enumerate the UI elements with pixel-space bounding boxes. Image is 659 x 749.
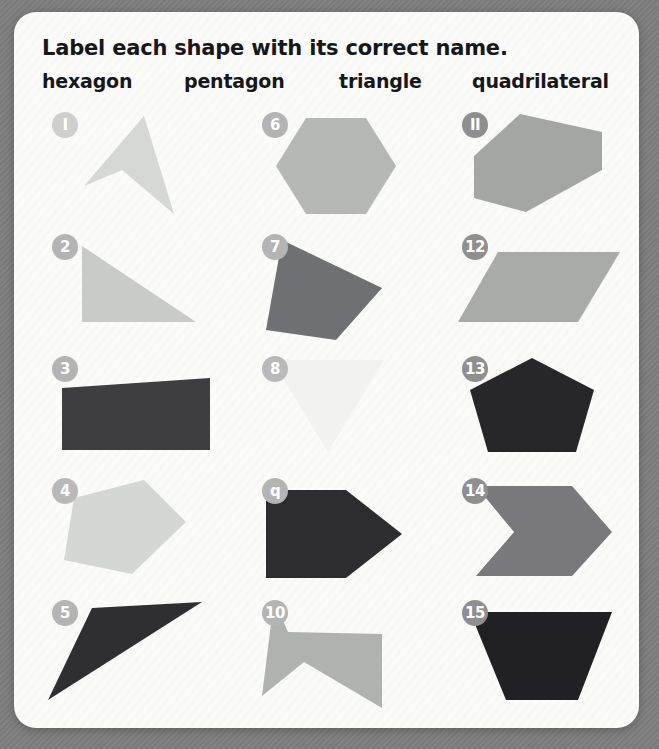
shape-number-badge-3: 3 [52, 356, 78, 382]
shape-number-badge-9: q [262, 478, 288, 504]
page-title: Label each shape with its correct name. [42, 36, 508, 60]
shape-cell-11[interactable]: II [454, 108, 639, 226]
shape-cell-14[interactable]: 14 [454, 474, 639, 592]
word-bank-term-hexagon[interactable]: hexagon [42, 70, 132, 92]
shape-cell-13[interactable]: 13 [454, 352, 639, 470]
shape-cell-3[interactable]: 3 [44, 352, 244, 470]
shape-cell-8[interactable]: 8 [254, 352, 454, 470]
word-bank-term-quadrilateral[interactable]: quadrilateral [472, 70, 609, 92]
shape-number-badge-12: 12 [462, 234, 488, 260]
shape-cell-2[interactable]: 2 [44, 230, 244, 348]
shape-number-badge-14: 14 [462, 478, 488, 504]
word-bank-term-triangle[interactable]: triangle [339, 70, 422, 92]
shape-cell-1[interactable]: I [44, 108, 244, 226]
shape-grid: I2345678q10II12131415 [14, 108, 639, 728]
shape-number-badge-8: 8 [262, 356, 288, 382]
shape-number-badge-5: 5 [52, 600, 78, 626]
shape-cell-6[interactable]: 6 [254, 108, 454, 226]
shape-number-badge-7: 7 [262, 234, 288, 260]
shape-number-badge-4: 4 [52, 478, 78, 504]
shape-number-badge-13: 13 [462, 356, 488, 382]
shape-number-badge-11: II [462, 112, 488, 138]
shape-number-badge-10: 10 [262, 600, 288, 626]
shape-cell-12[interactable]: 12 [454, 230, 639, 348]
shape-number-badge-2: 2 [52, 234, 78, 260]
shape-number-badge-6: 6 [262, 112, 288, 138]
shape-cell-15[interactable]: 15 [454, 596, 639, 714]
word-bank-term-pentagon[interactable]: pentagon [184, 70, 285, 92]
shape-number-badge-15: 15 [462, 600, 488, 626]
shape-cell-5[interactable]: 5 [44, 596, 244, 714]
word-bank: hexagon pentagon triangle quadrilateral [42, 70, 622, 100]
shape-number-badge-1: I [52, 112, 78, 138]
worksheet-card: Label each shape with its correct name. … [14, 12, 639, 728]
shape-cell-10[interactable]: 10 [254, 596, 454, 714]
shape-cell-4[interactable]: 4 [44, 474, 244, 592]
shape-cell-9[interactable]: q [254, 474, 454, 592]
shape-cell-7[interactable]: 7 [254, 230, 454, 348]
